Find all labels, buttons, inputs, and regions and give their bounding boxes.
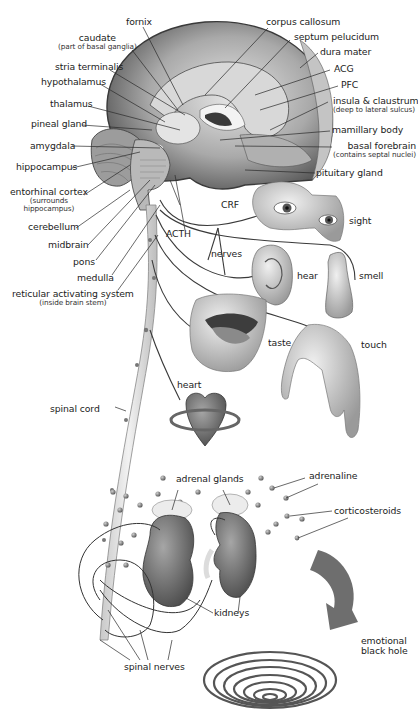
label-crf: CRF (221, 200, 239, 210)
curved-arrow-icon (310, 550, 358, 630)
label-spinal-nerves: spinal nerves (124, 662, 185, 672)
label-insula-sub: (deep to lateral sulcus) (333, 106, 418, 114)
label-pons: pons (73, 257, 95, 267)
label-basal-forebrain: basal forebrain (contains septal nuclei) (333, 141, 416, 159)
label-corpus-callosum: corpus callosum (266, 17, 340, 27)
hand-illustration (281, 324, 360, 437)
label-thalamus: thalamus (50, 99, 93, 109)
label-pfc: PFC (341, 80, 358, 90)
label-adrenal-glands: adrenal glands (176, 474, 243, 484)
label-dura-mater: dura mater (320, 47, 371, 57)
label-midbrain: midbrain (48, 240, 89, 250)
label-nerves: nerves (211, 249, 242, 259)
label-sight: sight (349, 216, 371, 226)
label-pineal-gland: pineal gland (31, 119, 87, 129)
nose-illustration (326, 252, 353, 318)
label-kidneys: kidneys (214, 608, 249, 618)
label-reticular-activating-system: reticular activating system (inside brai… (12, 289, 134, 307)
label-corticosteroids: corticosteroids (334, 506, 401, 516)
label-medulla: medulla (77, 273, 114, 283)
label-stria-terminalis: stria terminalis (55, 62, 123, 72)
label-caudate-sub: (part of basal ganglia) (58, 43, 137, 51)
label-caudate: caudate (part of basal ganglia) (58, 33, 137, 51)
label-fornix: fornix (126, 17, 152, 27)
heart-illustration (171, 393, 239, 446)
label-smell: smell (359, 271, 383, 281)
label-entorhinal-cortex: entorhinal cortex (surrounds hippocampus… (10, 187, 88, 213)
label-taste: taste (268, 338, 291, 348)
label-pituitary-gland: pituitary gland (316, 168, 383, 178)
hormone-particles (103, 475, 304, 567)
label-adrenaline: adrenaline (309, 471, 357, 481)
label-basal-forebrain-sub: (contains septal nuclei) (333, 151, 416, 159)
label-hippocampus: hippocampus (16, 162, 77, 172)
eyes-illustration (253, 182, 344, 242)
spiral-black-hole-illustration (204, 652, 336, 708)
label-heart: heart (177, 380, 201, 390)
label-mamillary-body: mamillary body (332, 125, 403, 135)
label-entorhinal-cortex-sub2: hippocampus) (10, 205, 88, 213)
label-emotional-black-hole-line2: black hole (361, 646, 408, 656)
label-septum-pelucidum: septum pelucidum (294, 32, 379, 42)
label-acg: ACG (334, 64, 354, 74)
label-amygdala: amygdala (30, 141, 75, 151)
label-acth: ACTH (166, 229, 191, 239)
label-emotional-black-hole: emotional black hole (361, 636, 408, 656)
label-touch: touch (361, 340, 387, 350)
kidneys-illustration (143, 494, 256, 607)
label-spinal-cord: spinal cord (50, 404, 100, 414)
mouth-illustration (190, 294, 266, 372)
label-ras-sub: (inside brain stem) (12, 299, 134, 307)
label-cerebellum: cerebellum (28, 222, 79, 232)
label-hear: hear (297, 271, 318, 281)
label-insula-claustrum: insula & claustrum (deep to lateral sulc… (333, 96, 418, 114)
label-hypothalamus: hypothalamus (41, 77, 106, 87)
ear-illustration (252, 245, 292, 305)
